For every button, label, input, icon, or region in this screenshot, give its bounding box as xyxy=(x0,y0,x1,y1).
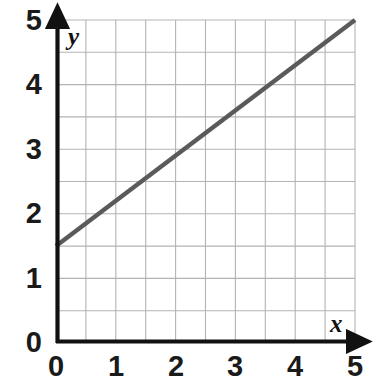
x-tick-label-0: 0 xyxy=(39,352,73,381)
x-tick-label-5: 5 xyxy=(338,352,372,381)
x-tick-label-1: 1 xyxy=(99,352,133,381)
x-tick-label-3: 3 xyxy=(218,352,252,381)
y-axis-label: y xyxy=(68,24,79,49)
x-tick-label-4: 4 xyxy=(278,352,312,381)
y-tick-label-2: 2 xyxy=(8,199,42,228)
y-tick-label-5: 5 xyxy=(8,6,42,35)
x-axis-label: x xyxy=(330,311,343,336)
coordinate-plane xyxy=(0,0,377,383)
x-tick-label-2: 2 xyxy=(159,352,193,381)
graph-figure: 5 4 3 2 1 0 0 1 2 3 4 5 y x xyxy=(0,0,377,383)
y-tick-label-1: 1 xyxy=(8,264,42,293)
y-tick-label-3: 3 xyxy=(8,135,42,164)
y-tick-label-4: 4 xyxy=(8,70,42,99)
y-tick-label-0: 0 xyxy=(8,328,42,357)
